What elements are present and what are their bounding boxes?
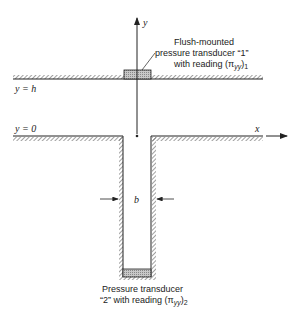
origin-dot (136, 135, 139, 138)
lower-wall-label: y = 0 (14, 123, 36, 134)
transducer-1-caption-line2: pressure transducer “1” (155, 48, 249, 58)
transducer-2 (123, 269, 151, 277)
transducer-2-caption-line2: “2” with reading (πyy)2 (100, 295, 188, 307)
transducer-1-caption-line1: Flush-mounted (174, 37, 234, 47)
slot (119, 136, 156, 280)
transducer-1-leader (142, 53, 155, 70)
y-axis-label: y (142, 17, 148, 28)
transducer-2-caption-line1: Pressure transducer (102, 284, 183, 294)
x-axis-label: x (254, 123, 260, 134)
slot-width-label: b (134, 194, 139, 205)
upper-wall-label: y = h (14, 83, 36, 94)
flow-diagram: y x y = h y = 0 b Flush-mounted pressure… (0, 0, 302, 314)
transducer-1-caption-line3: with reading (πyy)1 (173, 59, 248, 71)
